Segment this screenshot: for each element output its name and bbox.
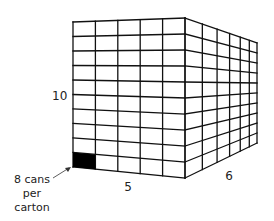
annotation-line-2: per <box>23 187 42 200</box>
width-label: 5 <box>124 180 132 194</box>
carton-diagram: 10 5 6 8 cans per carton <box>0 0 274 221</box>
side-face <box>185 18 257 178</box>
annotation-line-3: carton <box>14 201 49 214</box>
height-label: 10 <box>52 89 67 103</box>
highlighted-carton <box>73 153 95 170</box>
depth-label: 6 <box>225 169 233 183</box>
annotation: 8 cans per carton <box>14 167 71 214</box>
annotation-line-1: 8 cans <box>14 173 50 186</box>
